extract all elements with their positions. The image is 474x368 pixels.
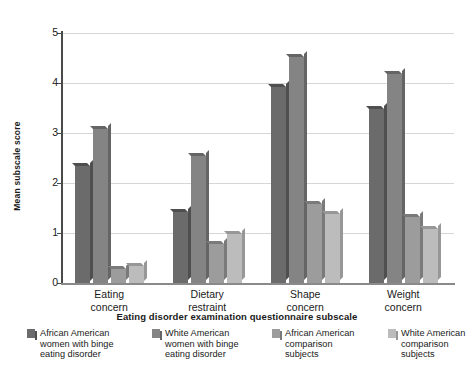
bar-face <box>111 269 126 283</box>
legend-swatch-side <box>396 331 398 340</box>
legend-item: White American women with binge eating d… <box>152 328 259 360</box>
bar-side <box>438 223 441 280</box>
x-axis-title: Eating disorder examination questionnair… <box>0 311 474 322</box>
bar <box>209 244 224 283</box>
bar <box>289 57 304 283</box>
bar <box>271 87 286 283</box>
legend-label: White American comparison subjects <box>401 328 474 360</box>
y-axis-title: Mean subscale score <box>12 0 22 96</box>
category-label-line: Eating <box>64 288 154 301</box>
legend-swatch <box>27 329 35 338</box>
bar-face <box>387 74 402 283</box>
bar <box>227 234 242 283</box>
bar-face <box>325 214 340 283</box>
plot-area <box>62 33 454 283</box>
bar-face <box>93 129 108 283</box>
legend-swatch-side <box>280 331 282 340</box>
bar-face <box>307 204 322 283</box>
bar <box>191 156 206 283</box>
legend-item: African American comparison subjects <box>272 328 379 360</box>
bar <box>129 266 144 284</box>
bar-face <box>191 156 206 283</box>
bar <box>325 214 340 283</box>
gridline <box>62 33 454 34</box>
bar-side <box>144 260 147 281</box>
y-tick-label: 0 <box>46 277 58 287</box>
legend-label: African American women with binge eating… <box>40 328 134 360</box>
category-label-line: Shape <box>260 288 350 301</box>
bar <box>173 212 188 283</box>
legend-label: White American women with binge eating d… <box>165 328 259 360</box>
plot-wrapper: Mean subscale score 012345 Eatingconcern… <box>0 0 474 300</box>
bar-side <box>340 208 343 280</box>
y-tick-label: 2 <box>46 177 58 187</box>
bar-face <box>271 87 286 283</box>
y-axis-title-text: Mean subscale score <box>12 96 22 236</box>
category-label-line: Weight <box>358 288 448 301</box>
bar-side <box>242 228 245 280</box>
legend-swatch <box>388 329 396 338</box>
legend-swatch-face <box>388 329 396 338</box>
bar-face <box>227 234 242 283</box>
bar <box>423 229 438 283</box>
bar-side <box>108 123 111 280</box>
legend-item: White American comparison subjects <box>388 328 474 360</box>
bar <box>111 269 126 283</box>
bar-face <box>369 109 384 283</box>
bar-face <box>289 57 304 283</box>
bar-face <box>173 212 188 283</box>
bar-face <box>405 217 420 283</box>
bar-face <box>423 229 438 283</box>
bar-face <box>75 166 90 284</box>
legend-swatch <box>272 329 280 338</box>
legend-swatch <box>152 329 160 338</box>
x-axis-line <box>61 283 455 285</box>
bar <box>369 109 384 283</box>
legend-label: African American comparison subjects <box>285 328 379 360</box>
category-label: Shapeconcern <box>260 288 350 313</box>
legend-swatch-side <box>35 331 37 340</box>
bar-chart-figure: Mean subscale score 012345 Eatingconcern… <box>0 0 474 368</box>
category-label: Dietaryrestraint <box>162 288 252 313</box>
bar-face <box>209 244 224 283</box>
legend-swatch-face <box>152 329 160 338</box>
legend-swatch-side <box>160 331 162 340</box>
y-tick-label: 5 <box>46 27 58 37</box>
y-tick-label: 1 <box>46 227 58 237</box>
category-label: Eatingconcern <box>64 288 154 313</box>
chart-legend: African American women with binge eating… <box>0 328 474 368</box>
bar <box>405 217 420 283</box>
bar <box>387 74 402 283</box>
legend-swatch-face <box>27 329 35 338</box>
category-label: Weightconcern <box>358 288 448 313</box>
bar <box>75 166 90 284</box>
y-tick-label: 3 <box>46 127 58 137</box>
y-axis-line <box>61 31 63 285</box>
y-tick-label: 4 <box>46 77 58 87</box>
bar <box>93 129 108 283</box>
bar-face <box>129 266 144 284</box>
category-label-line: Dietary <box>162 288 252 301</box>
legend-item: African American women with binge eating… <box>27 328 134 360</box>
bar <box>307 204 322 283</box>
legend-swatch-face <box>272 329 280 338</box>
